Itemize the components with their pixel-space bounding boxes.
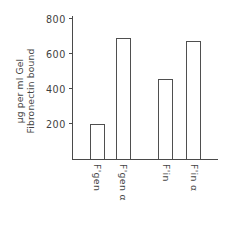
y-tick-mark-800 <box>69 18 73 19</box>
x-label-2: F'in <box>159 162 173 224</box>
x-label-0: F'gen <box>90 162 104 224</box>
y-tick-label-600: 200 <box>40 119 66 130</box>
plot-area <box>72 18 218 160</box>
x-label-1: F'gen α <box>116 162 130 224</box>
y-axis-title-rotated: Fibronectin bound µg per ml Gel <box>14 48 36 133</box>
x-label-text-1: F'gen α <box>118 164 129 201</box>
y-tick-mark-600 <box>69 53 73 54</box>
x-axis-line <box>72 159 218 160</box>
bar-3 <box>186 41 201 159</box>
y-tick-label-800: 800 <box>40 14 66 25</box>
x-label-text-3: F'in α <box>188 164 199 191</box>
x-label-text-0: F'gen <box>92 164 103 191</box>
y-axis-tick-labels: 800 600 400 200 <box>40 0 66 226</box>
y-axis-title-line-1: Fibronectin bound <box>25 48 36 133</box>
bar-0 <box>90 124 105 159</box>
y-axis-title: Fibronectin bound µg per ml Gel <box>8 18 42 163</box>
x-label-3: F'in α <box>187 162 201 224</box>
x-axis-category-labels: F'genF'gen αF'inF'in α <box>72 162 218 226</box>
y-tick-mark-400 <box>69 88 73 89</box>
y-tick-label-400: 400 <box>40 84 66 95</box>
bar-chart-figure: Fibronectin bound µg per ml Gel 800 600 … <box>0 0 230 226</box>
x-label-text-2: F'in <box>160 164 171 182</box>
bar-1 <box>116 38 131 159</box>
y-axis-title-line-2: µg per ml Gel <box>14 58 25 122</box>
bar-2 <box>158 79 173 160</box>
y-tick-mark-200 <box>69 123 73 124</box>
y-tick-label-600: 600 <box>40 49 66 60</box>
